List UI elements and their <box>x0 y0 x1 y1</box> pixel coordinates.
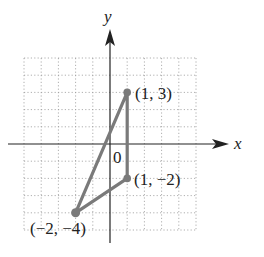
vertex-point <box>71 208 80 217</box>
vertex-point <box>123 89 131 97</box>
vertex-label-c: (−2, −4) <box>30 220 86 237</box>
y-axis-label: y <box>104 8 112 25</box>
triangle <box>71 89 131 218</box>
origin-label: 0 <box>113 149 122 166</box>
vertex-label-b: (1, −2) <box>134 171 180 188</box>
vertex-label-a: (1, 3) <box>135 85 172 102</box>
vertex-point <box>123 175 131 183</box>
x-axis-label: x <box>234 135 242 152</box>
